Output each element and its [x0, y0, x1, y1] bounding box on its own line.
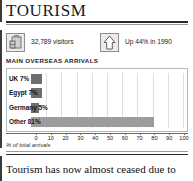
stat-visitors-value: 32,789 visitors [31, 38, 74, 46]
chart-bar-label: UK 7% [9, 75, 29, 83]
chart-axis-tick-label: 80 [151, 135, 157, 142]
suitcase-icon [6, 33, 25, 52]
footer-rule-thin [6, 151, 188, 152]
chart-axis-tick-label: 40 [92, 135, 98, 142]
chart-axis-tick-label: 50 [107, 135, 113, 142]
chart-bar-row: Egypt 7% [31, 88, 183, 98]
chart-bar-uk [31, 74, 42, 84]
chart-bar-label: Germany 5% [9, 104, 48, 112]
chart-axis-tick-label: 100 [179, 135, 188, 142]
chart-axis-tick-label: 60 [122, 135, 128, 142]
stat-growth: Up 44% in 1990 [100, 30, 190, 54]
chart-axis-tick-label: 70 [136, 135, 142, 142]
chart-x-axis: 0102030405060708090100 [6, 133, 188, 142]
stats-strip: 32,789 visitors Up 44% in 1990 [6, 30, 190, 54]
header-rule-thin [6, 24, 188, 25]
stat-visitors: 32,789 visitors [6, 30, 100, 54]
chart-bar-other [31, 117, 154, 127]
chart-gridline [183, 73, 184, 128]
chart-axis-tick-label: 90 [166, 135, 172, 142]
page-header: TOURISM [6, 1, 188, 25]
chart-bar-row: Other 81% [31, 117, 183, 127]
body-paragraph: Tourism has now almost ceased due to [6, 162, 192, 176]
chart-x-axis-caption: % of total arrivals [6, 142, 50, 148]
page-title: TOURISM [6, 1, 188, 20]
chart-axis-tick-label: 0 [34, 135, 37, 142]
stat-growth-value: Up 44% in 1990 [125, 38, 172, 46]
page-gutter-gap-top [0, 22, 2, 30]
chart-axis-tick-label: 30 [77, 135, 83, 142]
page-gutter-gap-bottom [0, 148, 2, 156]
chart-section-heading: MAIN OVERSEAS ARRIVALS [6, 57, 98, 64]
chart-bar-label: Egypt 7% [9, 89, 38, 97]
chart-bar-row: UK 7% [31, 74, 183, 84]
footer-rule-thick [6, 154, 188, 156]
chart-plot-area: UK 7%Egypt 7%Germany 5%Other 81% [31, 73, 183, 128]
chart-axis-line [6, 133, 188, 134]
arrivals-bar-chart: UK 7%Egypt 7%Germany 5%Other 81% [6, 68, 188, 132]
chart-bars: UK 7%Egypt 7%Germany 5%Other 81% [31, 73, 183, 128]
chart-axis-tick-label: 10 [48, 135, 54, 142]
chart-bar-row: Germany 5% [31, 103, 183, 113]
tourism-infographic-page: TOURISM 32,789 visitors [0, 0, 193, 181]
header-rule-thick [6, 21, 188, 23]
chart-axis-tick-label: 20 [62, 135, 68, 142]
chart-bar-label: Other 81% [9, 118, 41, 126]
up-arrow-icon [100, 33, 119, 52]
